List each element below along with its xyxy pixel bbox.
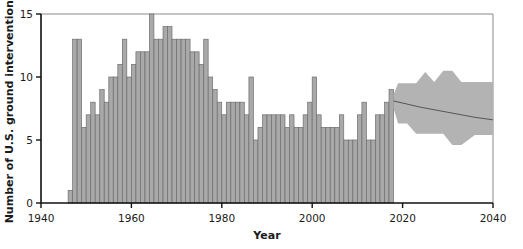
bar — [357, 115, 361, 203]
bar — [335, 127, 339, 203]
x-tick-label: 1960 — [118, 212, 145, 224]
bar — [299, 127, 303, 203]
bar — [204, 39, 208, 203]
x-tick-label: 2040 — [480, 212, 507, 224]
bar — [95, 115, 99, 203]
bar — [317, 115, 321, 203]
bar — [177, 39, 181, 203]
x-tick-label: 2020 — [389, 212, 416, 224]
bar — [312, 77, 316, 203]
bar — [104, 102, 108, 203]
x-tick-label: 2000 — [299, 212, 326, 224]
bar — [281, 115, 285, 203]
bar — [213, 90, 217, 203]
bar — [244, 115, 248, 203]
x-tick-label: 1940 — [28, 212, 55, 224]
bar — [253, 140, 257, 203]
bar — [140, 52, 144, 203]
bar — [303, 115, 307, 203]
forecast-uncertainty-band — [394, 71, 493, 145]
bar — [222, 115, 226, 203]
bar — [371, 140, 375, 203]
bar — [199, 64, 203, 203]
bar — [348, 140, 352, 203]
bar — [267, 115, 271, 203]
bar — [159, 39, 163, 203]
bar — [294, 127, 298, 203]
bar — [86, 115, 90, 203]
bar — [145, 52, 149, 203]
bar — [262, 115, 266, 203]
y-tick-label: 5 — [26, 134, 33, 146]
bar — [226, 102, 230, 203]
bar — [136, 52, 140, 203]
bar — [362, 102, 366, 203]
y-tick-label: 15 — [20, 8, 33, 20]
bar — [344, 140, 348, 203]
bar — [190, 52, 194, 203]
bar — [235, 102, 239, 203]
bar — [163, 27, 167, 203]
y-tick-label: 0 — [26, 197, 33, 209]
bar — [172, 39, 176, 203]
bar — [127, 77, 131, 203]
bar — [339, 115, 343, 203]
bar — [321, 127, 325, 203]
bar — [217, 102, 221, 203]
bar — [380, 115, 384, 203]
bar — [122, 39, 126, 203]
bar-chart-canvas: 051015194019601980200020202040YearNumber… — [0, 0, 523, 249]
bar — [82, 127, 86, 203]
bar — [308, 102, 312, 203]
y-axis-title: Number of U.S. ground interventions — [3, 0, 16, 223]
bar — [186, 39, 190, 203]
bar — [131, 64, 135, 203]
bar — [118, 64, 122, 203]
bar — [290, 115, 294, 203]
bar — [375, 115, 379, 203]
bar — [326, 127, 330, 203]
bar — [73, 39, 77, 203]
bar — [249, 77, 253, 203]
bar — [285, 127, 289, 203]
bar — [330, 127, 334, 203]
bar — [68, 190, 72, 203]
bar — [258, 127, 262, 203]
bar — [168, 27, 172, 203]
bar — [113, 77, 117, 203]
bar — [353, 140, 357, 203]
bar — [231, 102, 235, 203]
bar — [100, 90, 104, 203]
x-tick-label: 1980 — [208, 212, 235, 224]
bar — [154, 39, 158, 203]
bar — [149, 14, 153, 203]
bar — [181, 39, 185, 203]
bar-series — [68, 14, 393, 203]
bar — [276, 115, 280, 203]
chart-figure: 051015194019601980200020202040YearNumber… — [0, 0, 523, 249]
x-axis-title: Year — [252, 229, 281, 242]
bar — [389, 90, 393, 203]
bar — [385, 102, 389, 203]
y-tick-label: 10 — [20, 71, 33, 83]
bar — [109, 77, 113, 203]
bar — [240, 102, 244, 203]
bar — [91, 102, 95, 203]
bar — [208, 77, 212, 203]
bar — [272, 115, 276, 203]
bar — [366, 140, 370, 203]
bar — [77, 39, 81, 203]
bar — [195, 52, 199, 203]
